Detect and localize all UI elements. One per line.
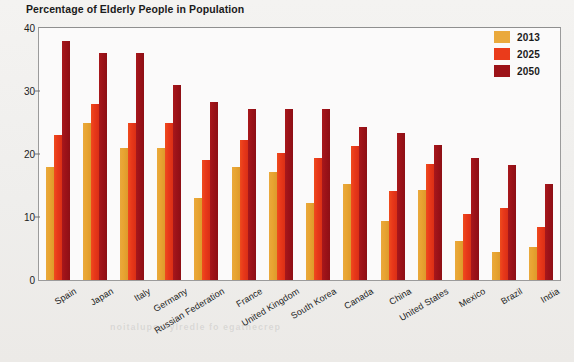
chart-title: Percentage of Elderly People in Populati… [26,3,244,15]
bar-group [381,28,405,280]
bar-2013[interactable] [46,167,54,280]
bar-group [157,28,181,280]
bar-2025[interactable] [54,135,62,280]
x-axis-label: Mexico [457,286,487,310]
y-axis-tick-label-0: 0 [5,275,35,286]
bar-2050[interactable] [397,133,405,280]
bar-2050[interactable] [210,102,218,280]
bar-2025[interactable] [240,140,248,280]
bar-2050[interactable] [545,184,553,280]
bar-group [418,28,442,280]
bar-2025[interactable] [537,227,545,280]
bar-2025[interactable] [277,153,285,280]
x-axis-label: India [539,286,561,305]
y-axis-tick-label-20: 20 [5,149,35,160]
bar-group [120,28,144,280]
bar-2013[interactable] [157,148,165,280]
bar-2025[interactable] [463,214,471,280]
bar-group [343,28,367,280]
bar-2025[interactable] [500,208,508,280]
legend-label-2025: 2025 [517,49,540,60]
bar-2013[interactable] [269,172,277,280]
bar-2025[interactable] [426,164,434,280]
plot-frame: 010203040 [38,27,561,281]
bar-2025[interactable] [165,123,173,281]
bar-2013[interactable] [343,184,351,280]
bar-2050[interactable] [136,53,144,280]
bar-2013[interactable] [381,221,389,280]
legend-item-2013[interactable]: 2013 [494,31,540,43]
bar-2050[interactable] [248,109,256,280]
bar-2025[interactable] [128,123,136,281]
legend-item-2025[interactable]: 2025 [494,48,540,60]
bar-group [46,28,70,280]
legend-swatch-2050 [494,65,510,77]
legend-swatch-2025 [494,48,510,60]
bar-2050[interactable] [99,53,107,280]
y-axis-tick-label-30: 30 [5,86,35,97]
bar-2013[interactable] [83,123,91,281]
bar-group [269,28,293,280]
y-axis-tick-mark-30 [35,91,40,92]
bar-2013[interactable] [306,203,314,280]
bar-2025[interactable] [202,160,210,280]
bar-2013[interactable] [232,167,240,280]
bar-2025[interactable] [314,158,322,280]
bar-2050[interactable] [285,109,293,280]
legend-swatch-2013 [494,31,510,43]
y-axis-tick-label-10: 10 [5,212,35,223]
y-axis-tick-label-40: 40 [5,23,35,34]
bar-group [83,28,107,280]
x-axis-label: Canada [343,286,376,311]
x-axis-label: Japan [88,286,115,307]
bar-2013[interactable] [529,247,537,280]
bar-group [306,28,330,280]
paper-bleed-through-2: noitalupop ylredle fo egatnecrep [110,322,281,332]
chart-legend: 2013 2025 2050 [494,31,540,77]
x-axis-label: China [387,286,413,307]
plot-area [39,28,560,280]
bar-group [455,28,479,280]
bar-2013[interactable] [492,252,500,280]
x-axis-label: Italy [132,286,152,303]
y-axis-tick-mark-20 [35,154,40,155]
bar-group [194,28,218,280]
x-axis-label: Spain [52,286,77,307]
x-axis-label: France [234,286,264,309]
bar-2013[interactable] [194,198,202,280]
bar-2050[interactable] [173,85,181,280]
x-axis-label: Russian Federation [153,286,227,336]
bar-2013[interactable] [418,190,426,280]
y-axis-tick-mark-10 [35,217,40,218]
legend-item-2050[interactable]: 2050 [494,65,540,77]
legend-label-2013: 2013 [517,32,540,43]
bar-2050[interactable] [322,109,330,280]
bar-2050[interactable] [434,145,442,280]
x-axis-label: Brazil [499,286,524,306]
bar-2050[interactable] [508,165,516,280]
bar-2025[interactable] [91,104,99,280]
bar-2013[interactable] [120,148,128,280]
bar-2050[interactable] [62,41,70,280]
bar-2050[interactable] [359,127,367,280]
bar-group [232,28,256,280]
legend-label-2050: 2050 [517,66,540,77]
page-background: NOITUBIRTSID noitalupop ylredle fo egatn… [0,0,574,362]
bar-2025[interactable] [389,191,397,280]
bar-2025[interactable] [351,146,359,280]
bar-2013[interactable] [455,241,463,280]
bar-2050[interactable] [471,158,479,280]
